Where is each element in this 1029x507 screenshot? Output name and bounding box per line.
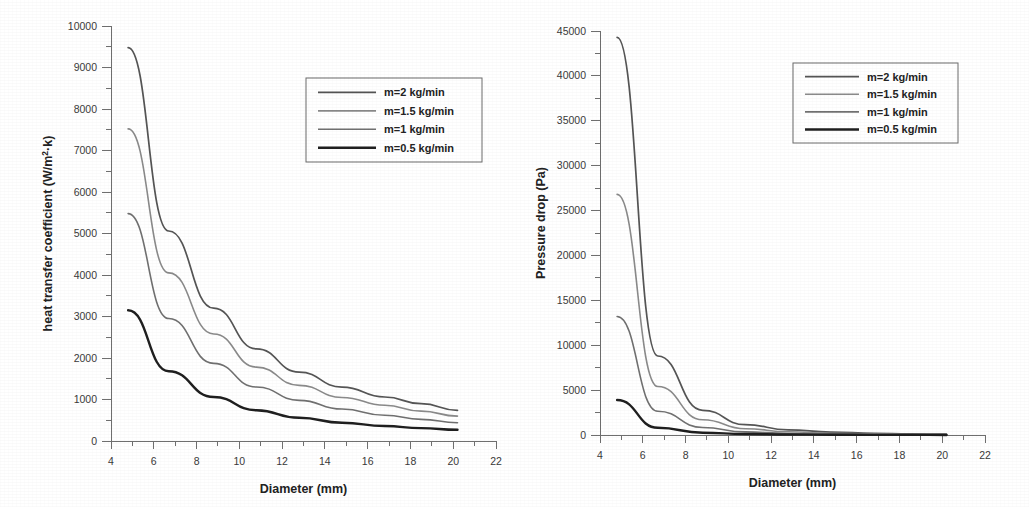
legend-label-0: m=2 kg/min: [384, 86, 445, 98]
x-tick-label: 4: [108, 455, 114, 467]
y-axis-title: Pressure drop (Pa): [534, 167, 548, 279]
x-tick-label: 18: [894, 449, 906, 461]
y-tick-label: 1000: [74, 393, 98, 405]
y-tick-label: 25000: [557, 204, 586, 216]
y-tick-label: 30000: [557, 159, 586, 171]
right-chart-legend: m=2 kg/minm=1.5 kg/minm=1 kg/minm=0.5 kg…: [793, 63, 958, 143]
x-tick-label: 18: [405, 455, 417, 467]
x-tick-label: 20: [447, 455, 459, 467]
chart-panel-pressure-drop: 4681012141618202205000100001500020000250…: [515, 0, 1029, 507]
x-tick-label: 16: [362, 455, 374, 467]
heat-transfer-coefficient-plot: 4681012141618202201000200030004000500060…: [0, 0, 515, 507]
chart-panel-heat-transfer-coefficient: 4681012141618202201000200030004000500060…: [0, 0, 515, 507]
y-tick-label: 35000: [557, 114, 586, 126]
x-tick-label: 8: [683, 449, 689, 461]
y-tick-label: 7000: [74, 144, 98, 156]
y-tick-label: 9000: [74, 61, 98, 73]
x-tick-label: 12: [765, 449, 777, 461]
y-tick-label: 0: [91, 435, 97, 447]
legend-label-1: m=1.5 kg/min: [384, 105, 454, 117]
y-tick-label: 0: [580, 429, 586, 441]
x-tick-label: 10: [722, 449, 734, 461]
x-tick-label: 10: [233, 455, 245, 467]
left-chart-legend: m=2 kg/minm=1.5 kg/minm=1 kg/minm=0.5 kg…: [306, 78, 482, 162]
x-tick-label: 4: [597, 449, 603, 461]
x-tick-label: 6: [640, 449, 646, 461]
series-line-2: [128, 214, 457, 423]
x-tick-label: 6: [151, 455, 157, 467]
legend-label-1: m=1.5 kg/min: [867, 88, 937, 100]
y-tick-label: 8000: [74, 103, 98, 115]
legend-label-2: m=1 kg/min: [867, 106, 928, 118]
x-tick-label: 14: [808, 449, 820, 461]
y-tick-label: 5000: [74, 227, 98, 239]
y-tick-label: 2000: [74, 352, 98, 364]
x-tick-label: 12: [276, 455, 288, 467]
legend-label-2: m=1 kg/min: [384, 123, 445, 135]
legend-label-3: m=0.5 kg/min: [384, 142, 454, 154]
series-line-3: [128, 310, 457, 430]
pressure-drop-plot: 4681012141618202205000100001500020000250…: [515, 0, 1029, 507]
y-axis-title: heat transfer coefficient (W/m2·k): [40, 136, 55, 332]
figure-two-line-charts: 4681012141618202201000200030004000500060…: [0, 0, 1029, 507]
y-tick-label: 5000: [563, 384, 587, 396]
y-tick-label: 40000: [557, 69, 586, 81]
legend-label-3: m=0.5 kg/min: [867, 123, 937, 135]
y-tick-label: 15000: [557, 294, 586, 306]
y-tick-label: 3000: [74, 310, 98, 322]
y-tick-label: 45000: [557, 25, 586, 37]
x-tick-label: 20: [936, 449, 948, 461]
x-tick-label: 14: [319, 455, 331, 467]
x-tick-label: 16: [851, 449, 863, 461]
x-tick-label: 22: [490, 455, 502, 467]
y-tick-label: 20000: [557, 249, 586, 261]
y-tick-label: 10000: [68, 20, 97, 32]
x-axis-title: Diameter (mm): [749, 476, 837, 490]
series-line-1: [617, 194, 946, 434]
legend-label-0: m=2 kg/min: [867, 71, 928, 83]
series-line-2: [617, 316, 946, 434]
x-tick-label: 22: [979, 449, 991, 461]
x-axis-title: Diameter (mm): [260, 482, 348, 496]
y-tick-label: 6000: [74, 186, 98, 198]
y-tick-label: 4000: [74, 269, 98, 281]
x-tick-label: 8: [194, 455, 200, 467]
y-tick-label: 10000: [557, 339, 586, 351]
